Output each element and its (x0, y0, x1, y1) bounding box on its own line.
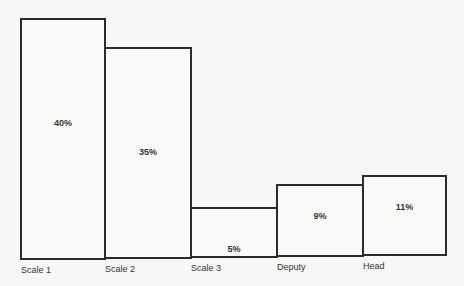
bar-value-label: 35% (106, 147, 190, 157)
bar-value-label: 9% (278, 211, 362, 221)
bar-value-label: 40% (22, 118, 104, 128)
bar-chart: 40%Scale 135%Scale 25%Scale 39%Deputy11%… (0, 0, 464, 286)
bar-deputy: 9% (276, 184, 364, 257)
bar-scale-3: 5% (190, 207, 278, 258)
category-label: Scale 3 (191, 263, 221, 273)
category-label: Scale 1 (21, 265, 51, 275)
category-label: Deputy (277, 262, 306, 272)
category-label: Head (363, 261, 385, 271)
category-label: Scale 2 (105, 264, 135, 274)
bar-scale-2: 35% (104, 47, 192, 259)
bar-value-label: 11% (364, 202, 445, 212)
bar-value-label: 5% (192, 244, 276, 254)
bar-scale-1: 40% (20, 18, 106, 260)
bar-head: 11% (362, 175, 447, 256)
